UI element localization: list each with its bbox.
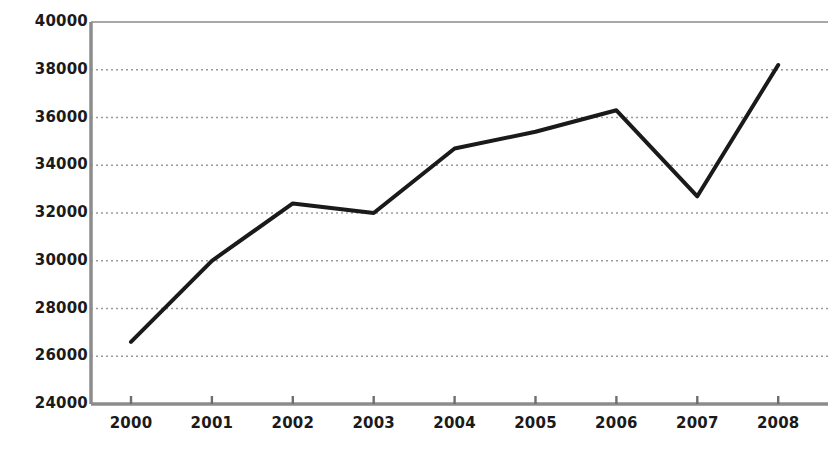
x-tick-label-group: 200020012002200320042005200620072008 [0, 0, 833, 454]
x-tick-label-2001: 2001 [191, 416, 234, 431]
x-tick-label-2005: 2005 [514, 416, 557, 431]
x-tick-label-2003: 2003 [352, 416, 395, 431]
x-tick-label-2008: 2008 [757, 416, 800, 431]
line-chart: 2400026000280003000032000340003600038000… [0, 0, 833, 454]
x-tick-label-2002: 2002 [272, 416, 315, 431]
x-tick-label-2007: 2007 [676, 416, 719, 431]
x-tick-label-2006: 2006 [595, 416, 638, 431]
x-tick-label-2004: 2004 [433, 416, 476, 431]
x-tick-label-2000: 2000 [110, 416, 153, 431]
